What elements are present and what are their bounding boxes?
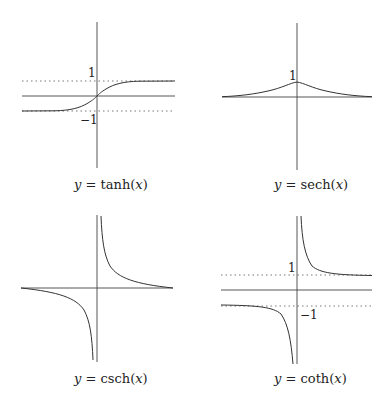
plot-coth: 1 −1 y = coth(x) (221, 216, 372, 386)
plot-tanh: 1 −1 y = tanh(x) (22, 22, 175, 192)
tick-label-1: 1 (288, 261, 296, 275)
csch-curve-left (21, 288, 93, 360)
caption-tanh: y = tanh(x) (73, 177, 148, 192)
csch-curve-right (101, 216, 173, 288)
tick-label-neg1: −1 (80, 113, 98, 127)
caption-sech: y = sech(x) (273, 177, 348, 192)
plot-sech: 1 y = sech(x) (222, 23, 372, 192)
hyperbolic-functions-figure: 1 −1 y = tanh(x) 1 y = sech(x) y = csch(… (0, 0, 391, 403)
tick-label-1: 1 (289, 69, 297, 83)
coth-curve-right (301, 216, 372, 276)
tick-label-neg1: −1 (300, 308, 318, 322)
plot-csch: y = csch(x) (21, 215, 173, 386)
caption-csch: y = csch(x) (73, 371, 148, 386)
caption-coth: y = coth(x) (273, 371, 347, 386)
coth-curve-left (221, 305, 293, 364)
tick-label-1: 1 (88, 66, 96, 80)
